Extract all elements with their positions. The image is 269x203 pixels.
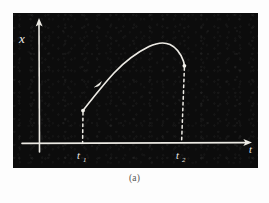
tick-label-t1: t 1 — [77, 150, 86, 163]
x-axis — [22, 139, 252, 146]
figure-root: x t t 1 t 2 (a) — [0, 0, 269, 203]
plot-panel: x t t 1 t 2 — [13, 13, 258, 168]
plot-svg: x t t 1 t 2 — [13, 13, 258, 168]
tick-label-t2-base: t — [176, 150, 180, 161]
x-axis-label: t — [249, 144, 253, 155]
drop-line-t2 — [182, 68, 185, 142]
tick-label-t2: t 2 — [176, 150, 186, 163]
y-axis — [36, 18, 43, 152]
curve-path — [83, 43, 184, 110]
tick-label-t1-sub: 1 — [83, 156, 86, 163]
y-axis-label: x — [18, 31, 25, 46]
tick-label-t1-base: t — [77, 150, 81, 161]
tick-label-t2-sub: 2 — [182, 156, 186, 163]
y-axis-line — [39, 23, 40, 152]
figure-caption: (a) — [0, 173, 269, 183]
x-axis-line — [22, 143, 247, 144]
trajectory-curve — [81, 43, 186, 112]
arrow-along-curve-icon — [94, 81, 102, 88]
